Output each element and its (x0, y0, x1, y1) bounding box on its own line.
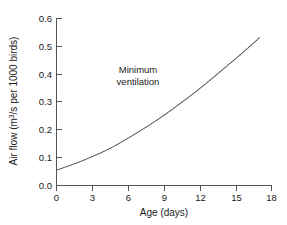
y-axis-title-pre: Air flow (m (8, 118, 19, 165)
chart-canvas: 0.0 0.1 0.2 0.3 0.4 0.5 0.6 0 3 6 9 12 1… (0, 0, 287, 225)
x-tick-label: 6 (126, 192, 131, 203)
y-tick-label: 0.5 (39, 41, 52, 52)
y-tick-labels: 0.0 0.1 0.2 0.3 0.4 0.5 0.6 (39, 13, 52, 191)
y-tick-label: 0.4 (39, 69, 52, 80)
minimum-ventilation-annotation: Minimum ventilation (117, 64, 160, 87)
x-axis-title: Age (days) (140, 207, 188, 218)
y-tick-label: 0.6 (39, 13, 52, 24)
axes-spines (56, 18, 272, 186)
x-tick-label: 12 (195, 192, 206, 203)
x-tick-label: 0 (54, 192, 59, 203)
y-tick-marks (57, 18, 62, 185)
x-tick-label: 9 (162, 192, 167, 203)
x-tick-labels: 0 3 6 9 12 15 18 (54, 192, 277, 203)
y-tick-label: 0.3 (39, 96, 52, 107)
x-tick-label: 18 (266, 192, 277, 203)
x-tick-label: 3 (90, 192, 95, 203)
x-tick-marks (57, 186, 272, 191)
annotation-line-1: Minimum (119, 64, 158, 75)
annotation-line-2: ventilation (117, 76, 160, 87)
y-axis-title: Air flow (m3/s per 1000 birds) (8, 37, 19, 166)
y-axis-title-post: /s per 1000 birds) (8, 37, 19, 115)
minimum-ventilation-curve (57, 38, 260, 170)
y-tick-label: 0.1 (39, 152, 52, 163)
x-tick-label: 15 (231, 192, 242, 203)
chart-figure: 0.0 0.1 0.2 0.3 0.4 0.5 0.6 0 3 6 9 12 1… (0, 0, 287, 225)
y-tick-label: 0.2 (39, 124, 52, 135)
y-tick-label: 0.0 (39, 180, 52, 191)
